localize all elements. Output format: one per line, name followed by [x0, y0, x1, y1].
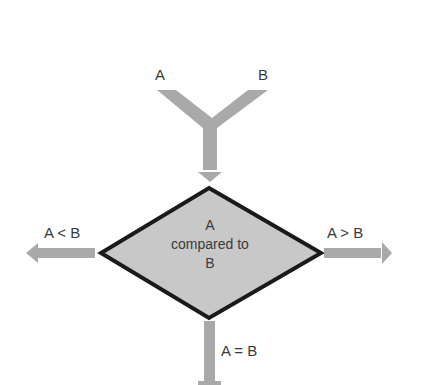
decision-line-3: B — [150, 254, 270, 272]
output-arrow-greater — [324, 242, 392, 264]
output-label-equal: A = B — [221, 342, 257, 359]
input-label-a: A — [155, 66, 165, 83]
input-label-b: B — [258, 66, 268, 83]
decision-line-1: A — [150, 216, 270, 234]
input-merge-arrow — [157, 90, 268, 182]
output-label-less: A < B — [44, 224, 80, 241]
decision-line-2: compared to — [150, 235, 270, 253]
output-arrow-equal — [198, 321, 221, 385]
output-label-greater: A > B — [327, 224, 363, 241]
input-arrowhead — [198, 172, 222, 182]
decision-diamond — [101, 188, 321, 318]
flowchart-canvas — [0, 0, 422, 385]
output-arrow-less — [26, 243, 95, 263]
